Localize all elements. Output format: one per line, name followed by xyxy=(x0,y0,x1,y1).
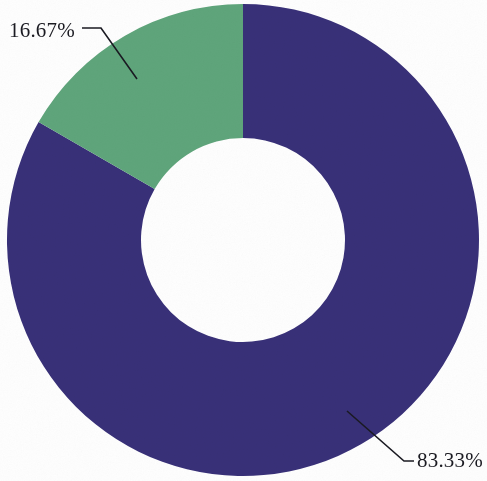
donut-chart-canvas xyxy=(0,0,487,481)
donut-chart-figure: 16.67% 83.33% xyxy=(0,0,487,481)
data-label-segment-b: 16.67% xyxy=(9,20,75,41)
data-label-segment-a: 83.33% xyxy=(417,450,483,471)
